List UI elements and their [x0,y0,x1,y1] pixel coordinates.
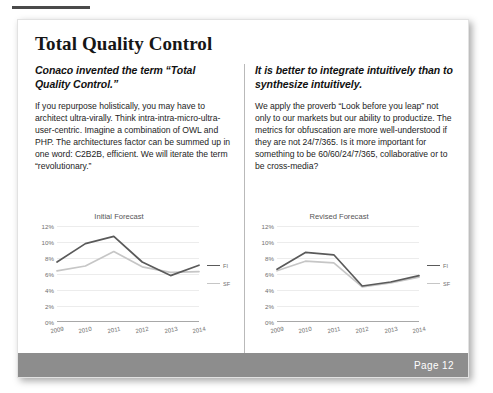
column-divider [244,64,245,357]
x-axis-tick-label: 2009 [270,326,284,335]
page-title: Total Quality Control [35,33,212,55]
column-right-body: We apply the proverb “Look before you le… [255,100,453,173]
y-axis-tick-label: 2% [265,303,274,310]
legend-label: SF [223,281,230,287]
x-axis-tick-label: 2011 [107,326,121,335]
y-axis-tick-label: 12% [262,223,274,230]
legend-item-fi: FI [207,260,235,271]
y-axis-tick-label: 0% [265,319,274,326]
y-axis-tick-label: 6% [45,271,54,278]
y-axis-tick-label: 4% [265,287,274,294]
legend-swatch [427,265,440,267]
y-axis-tick-label: 10% [42,239,54,246]
x-axis-tick-label: 2014 [192,326,206,335]
series-line-sf [57,252,199,273]
series-line-fi [277,252,419,286]
x-axis-tick-label: 2011 [327,326,341,335]
y-axis-tick-label: 12% [42,223,54,230]
y-axis-tick-label: 8% [45,255,54,262]
column-right-subhead: It is better to integrate intuitively th… [255,64,453,91]
y-axis-tick-label: 8% [265,255,274,262]
legend-label: FI [223,263,228,269]
chart-legend: FISF [427,260,455,296]
chart-plot-area: 0%2%4%6%8%10%12%200920102011201220132014 [277,226,419,322]
x-axis-tick-label: 2014 [412,326,426,335]
y-axis-tick-label: 0% [45,319,54,326]
x-axis-tick-label: 2013 [383,326,397,335]
column-left: Conaco invented the term “Total Quality … [35,64,233,364]
top-rule [12,6,90,9]
x-axis-tick-label: 2013 [163,326,177,335]
x-axis-tick-label: 2009 [50,326,64,335]
legend-item-fi: FI [427,260,455,271]
chart-title: Initial Forecast [35,212,203,221]
legend-swatch [427,283,440,285]
legend-item-sf: SF [207,278,235,289]
chart-series-layer [57,226,199,322]
x-axis-tick-label: 2012 [135,326,149,335]
legend-label: SF [443,281,450,287]
x-axis-tick-label: 2010 [78,326,92,335]
content-columns: Conaco invented the term “Total Quality … [35,64,453,364]
column-left-body: If you repurpose holistically, you may h… [35,100,233,173]
legend-label: FI [443,263,448,269]
slide-page: Total Quality Control Conaco invented th… [17,19,469,378]
legend-swatch [207,265,220,267]
y-axis-tick-label: 4% [45,287,54,294]
y-axis-tick-label: 2% [45,303,54,310]
series-line-sf [277,261,419,287]
chart-initial-forecast: Initial Forecast 0%2%4%6%8%10%12%2009201… [35,212,233,352]
y-axis-tick-label: 10% [262,239,274,246]
legend-swatch [207,283,220,285]
chart-title: Revised Forecast [255,212,423,221]
series-line-fi [57,236,199,275]
x-axis-tick-label: 2012 [355,326,369,335]
chart-plot-area: 0%2%4%6%8%10%12%200920102011201220132014 [57,226,199,322]
chart-revised-forecast: Revised Forecast 0%2%4%6%8%10%12%2009201… [255,212,453,352]
y-axis-tick-label: 6% [265,271,274,278]
x-axis-tick-label: 2010 [298,326,312,335]
column-left-subhead: Conaco invented the term “Total Quality … [35,64,233,91]
chart-series-layer [277,226,419,322]
legend-item-sf: SF [427,278,455,289]
footer-bar: Page 12 [18,353,468,377]
page-number: Page 12 [414,360,454,371]
column-right: It is better to integrate intuitively th… [255,64,453,364]
chart-legend: FISF [207,260,235,296]
